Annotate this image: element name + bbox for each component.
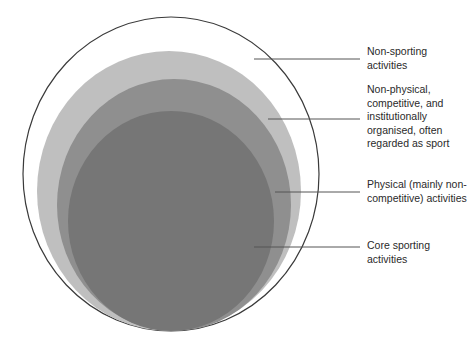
label-physical: Physical (mainly non-competitive) activi… <box>367 178 467 205</box>
label-non-sporting: Non-sporting activities <box>367 45 467 72</box>
label-non-physical: Non-physical, competitive, and instituti… <box>367 83 467 151</box>
circle-core <box>68 111 274 331</box>
label-core: Core sporting activities <box>367 239 467 266</box>
